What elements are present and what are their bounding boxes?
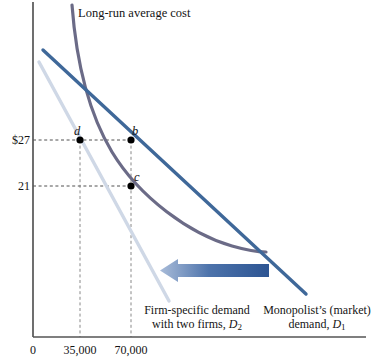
demand-d2-annotation: Firm-specific demand with two firms, D2 xyxy=(136,303,258,331)
guide-lines xyxy=(33,140,133,337)
y-axis-tick-21: 21 xyxy=(0,179,30,193)
point-label-d: d xyxy=(74,124,80,139)
demand-d1-subscript: 1 xyxy=(341,322,346,332)
x-axis-tick-35000: 35,000 xyxy=(52,343,108,357)
demand-d1-annotation: Monopolist’s (market) demand, D1 xyxy=(257,303,377,331)
demand-d2-line1: Firm-specific demand xyxy=(144,303,250,317)
arrow-shape xyxy=(160,259,269,282)
lrac-curve xyxy=(72,5,266,252)
demand-curve-d1 xyxy=(43,50,306,294)
x-axis-tick-0: 0 xyxy=(26,343,40,357)
point-label-b: b xyxy=(132,124,138,139)
lrac-label: Long-run average cost xyxy=(78,6,190,21)
axes xyxy=(33,2,366,337)
economics-figure: Long-run average cost $27 21 0 35,000 70… xyxy=(0,0,379,364)
demand-shift-arrow xyxy=(160,259,269,282)
demand-d1-line1: Monopolist’s (market) xyxy=(263,303,371,317)
demand-d2-line2: with two firms, xyxy=(152,317,229,331)
y-axis-tick-27: $27 xyxy=(0,133,30,147)
demand-d2-subscript: 2 xyxy=(237,322,242,332)
demand-curve-d2 xyxy=(39,62,169,301)
demand-d1-symbol: D xyxy=(332,317,341,331)
demand-d1-line2: demand, xyxy=(288,317,332,331)
x-axis-tick-70000: 70,000 xyxy=(103,343,159,357)
point-label-c: c xyxy=(134,170,140,185)
